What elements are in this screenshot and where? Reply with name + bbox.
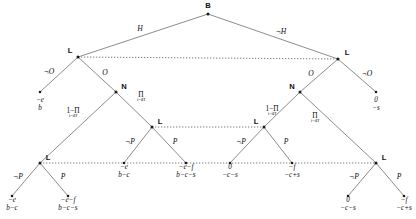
tree-edge-e-L1-t1: [40, 57, 78, 92]
terminal-node-t3: [123, 162, 126, 165]
terminal-node-t5: [229, 162, 232, 165]
terminal-node-t10: [67, 195, 70, 198]
information-set-lines-group: [40, 57, 376, 163]
tree-edge-e-L5-t10: [40, 163, 68, 196]
decision-node-N1: [115, 91, 118, 94]
tree-edge-e-N2-L6: [300, 92, 376, 163]
terminal-node-t2: [375, 91, 378, 94]
terminal-node-t7: [347, 195, 350, 198]
game-tree-figure: BLLNNLLLLH¬H¬OO¬OO¬PP¬PP¬PP¬PP1−Πi=iHΠi=…: [0, 0, 416, 219]
terminal-node-t4: [185, 162, 188, 165]
decision-node-L1: [77, 56, 80, 59]
terminal-node-t6: [291, 162, 294, 165]
decision-node-L4: [263, 126, 266, 129]
tree-edge-e-L3-t3: [124, 127, 152, 163]
tree-edge-e-L4-t5: [230, 127, 264, 163]
tree-edge-e-L2-N2: [300, 59, 338, 92]
tree-edge-e-L6-t8: [376, 163, 404, 196]
tree-edge-e-L6-t7: [348, 163, 376, 196]
tree-canvas: [0, 0, 416, 219]
decision-node-L3: [151, 126, 154, 129]
decision-node-L6: [375, 162, 378, 165]
tree-edge-e-root-L2: [208, 14, 338, 59]
terminal-node-t1: [39, 91, 42, 94]
tree-edge-e-L3-t4: [152, 127, 186, 163]
tree-edge-e-N1-L3: [116, 92, 152, 127]
decision-node-root: [207, 13, 210, 16]
tree-edge-e-L2-t2: [338, 59, 376, 92]
information-set-iset-top: [78, 57, 338, 59]
tree-edge-e-N1-L5: [40, 92, 116, 163]
tree-edge-e-L5-t9: [12, 163, 40, 196]
decision-node-N2: [299, 91, 302, 94]
edges-group: [12, 14, 404, 196]
tree-edge-e-L4-t6: [264, 127, 292, 163]
tree-edge-e-N2-L4: [264, 92, 300, 127]
terminal-node-t9: [11, 195, 14, 198]
decision-node-L2: [337, 58, 340, 61]
decision-node-L5: [39, 162, 42, 165]
tree-edge-e-root-L1: [78, 14, 208, 57]
node-dots-group: [11, 13, 406, 198]
tree-edge-e-L1-N1: [78, 57, 116, 92]
terminal-node-t8: [403, 195, 406, 198]
